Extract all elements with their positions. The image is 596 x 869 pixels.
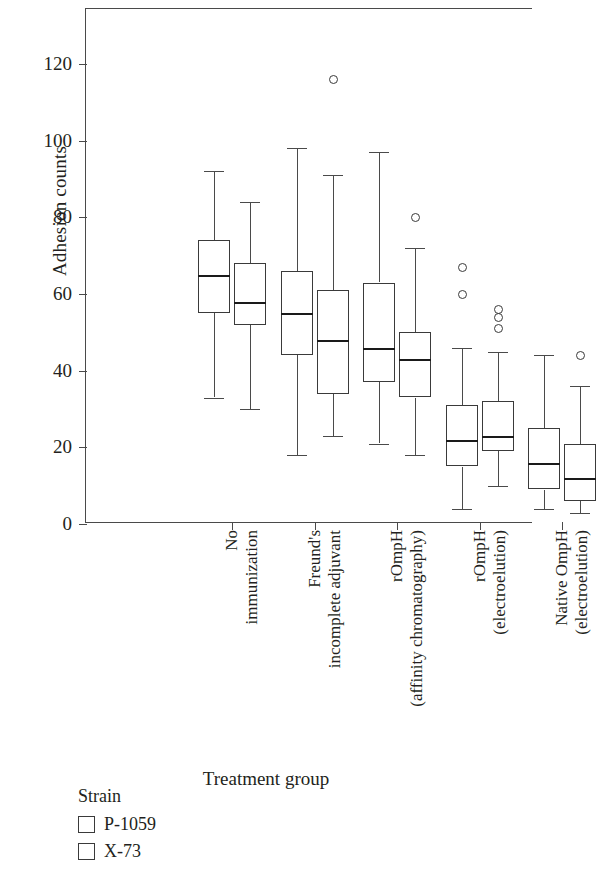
category-label-line1: No	[222, 530, 241, 551]
box-iqr	[234, 263, 266, 324]
y-axis-tick-mark	[79, 371, 87, 372]
whisker-cap-upper	[534, 355, 554, 356]
legend-item-label: X-73	[104, 841, 141, 862]
y-axis-tick-mark	[79, 141, 87, 142]
y-axis-tick-label: 40	[28, 360, 72, 379]
y-axis-tick-mark	[79, 524, 87, 525]
whisker-cap-lower	[323, 436, 343, 437]
whisker-upper	[250, 202, 251, 263]
whisker-upper	[580, 386, 581, 444]
whisker-cap-lower	[488, 486, 508, 487]
legend-item[interactable]: P-1059	[78, 814, 278, 835]
x-axis-tick-mark	[480, 522, 481, 530]
whisker-lower	[544, 490, 545, 509]
median-line	[317, 340, 349, 342]
median-line	[564, 478, 596, 480]
legend-title: Strain	[78, 786, 278, 807]
box-iqr	[482, 401, 514, 451]
whisker-cap-upper	[570, 386, 590, 387]
whisker-lower	[214, 313, 215, 397]
y-axis-tick-label: 20	[28, 437, 72, 456]
y-axis-tick-label: 80	[28, 207, 72, 226]
whisker-cap-upper	[369, 152, 389, 153]
category-label-line2: incomplete adjuvant	[325, 530, 345, 760]
whisker-upper	[214, 171, 215, 240]
whisker-cap-upper	[287, 148, 307, 149]
x-axis-category-label: rOmpH(electroelution)	[470, 530, 488, 760]
whisker-cap-lower	[452, 509, 472, 510]
y-axis-tick-label: 100	[28, 130, 72, 149]
whisker-lower	[462, 467, 463, 509]
x-axis-tick-mark	[315, 522, 316, 530]
x-axis-category-label: rOmpH(affinity chromatography)	[387, 530, 405, 760]
plot-panel	[85, 8, 532, 523]
whisker-upper	[333, 175, 334, 290]
category-label-line1: rOmpH	[387, 530, 406, 582]
median-line	[399, 359, 431, 361]
y-axis-tick-mark	[79, 64, 87, 65]
whisker-lower	[379, 382, 380, 443]
x-axis-category-label: Freund'sincomplete adjuvant	[305, 530, 323, 760]
legend-swatch-icon	[78, 816, 95, 833]
whisker-lower	[498, 451, 499, 486]
outlier-point	[576, 351, 585, 360]
whisker-cap-upper	[323, 175, 343, 176]
y-axis-tick-labels: 020406080100120	[0, 0, 72, 869]
whisker-cap-lower	[369, 444, 389, 445]
median-line	[234, 302, 266, 304]
median-line	[528, 463, 560, 465]
category-label-line2: (electroelution)	[572, 530, 592, 760]
outlier-point	[494, 313, 503, 322]
median-line	[446, 440, 478, 442]
category-label-line1: rOmpH	[470, 530, 489, 582]
x-axis-category-label: Noimmunization	[222, 530, 240, 760]
y-axis-tick-label: 120	[28, 54, 72, 73]
category-label-line1: Native OmpH	[552, 530, 571, 626]
outlier-point	[329, 75, 338, 84]
legend-items: P-1059X-73	[78, 814, 278, 862]
box-iqr	[528, 428, 560, 489]
whisker-upper	[297, 148, 298, 271]
whisker-cap-lower	[204, 398, 224, 399]
box-iqr	[363, 283, 395, 383]
whisker-cap-upper	[488, 352, 508, 353]
legend-item[interactable]: X-73	[78, 841, 278, 862]
whisker-cap-lower	[534, 509, 554, 510]
whisker-cap-upper	[405, 248, 425, 249]
y-axis-tick-mark	[79, 447, 87, 448]
category-label-line2: (electroelution)	[490, 530, 510, 760]
box-iqr	[446, 405, 478, 466]
whisker-upper	[379, 152, 380, 282]
whisker-cap-upper	[204, 171, 224, 172]
y-axis-tick-mark	[79, 217, 87, 218]
legend-swatch-icon	[78, 843, 95, 860]
whisker-cap-lower	[240, 409, 260, 410]
median-line	[482, 436, 514, 438]
legend-item-label: P-1059	[104, 814, 156, 835]
whisker-cap-lower	[405, 455, 425, 456]
box-iqr	[564, 444, 596, 502]
y-axis-tick-mark	[79, 294, 87, 295]
whisker-upper	[498, 352, 499, 402]
whisker-lower	[580, 501, 581, 513]
category-label-line1: Freund's	[305, 530, 324, 588]
median-line	[363, 348, 395, 350]
whisker-upper	[462, 348, 463, 406]
whisker-cap-lower	[287, 455, 307, 456]
y-axis-tick-label: 0	[28, 514, 72, 533]
x-axis-tick-mark	[562, 522, 563, 530]
outlier-point	[411, 213, 420, 222]
whisker-cap-upper	[452, 348, 472, 349]
median-line	[281, 313, 313, 315]
x-axis-category-label: Native OmpH(electroelution)	[552, 530, 570, 760]
whisker-lower	[415, 398, 416, 456]
outlier-point	[458, 263, 467, 272]
x-axis-tick-mark	[232, 522, 233, 530]
whisker-upper	[544, 355, 545, 428]
outlier-point	[494, 324, 503, 333]
category-label-line2: immunization	[242, 530, 262, 760]
category-label-line2: (affinity chromatography)	[407, 530, 427, 760]
whisker-upper	[415, 248, 416, 332]
median-line	[198, 275, 230, 277]
